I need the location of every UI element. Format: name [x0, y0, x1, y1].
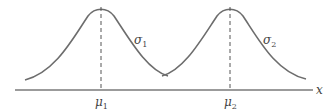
sd-label-2: σ2	[263, 33, 276, 49]
mean-label-2: μ2	[224, 95, 237, 109]
x-axis-label: x	[316, 83, 323, 97]
sd-label-1: σ1	[134, 33, 147, 49]
two-normal-distributions-diagram: x μ1 σ1 μ2 σ2	[0, 0, 334, 109]
normal-curve-2	[162, 9, 306, 79]
mean-label-1: μ1	[95, 95, 108, 109]
